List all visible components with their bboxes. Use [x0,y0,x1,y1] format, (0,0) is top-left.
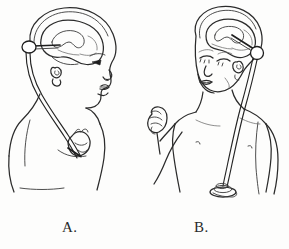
panel-a-heart-detail-3 [75,143,87,145]
panel-a-neck-back [9,94,40,156]
panel-a-drawing [9,8,116,192]
panel-a-distal-catheter-inner [30,53,81,157]
panel-b-cheek-line [225,78,229,88]
figure-container: A. B. [0,0,289,249]
panel-b-shunt-reservoir [251,47,264,60]
panel-b-caption: B. [194,219,209,236]
panel-a-torso-right-contour [97,124,105,190]
panel-b-neck-left [196,92,203,112]
panel-a-brain-outline [41,20,104,65]
panel-a-ear-lobe [52,79,61,86]
panel-b-eyelash-left [200,59,209,63]
panel-a-brain-sulcus-3 [58,50,79,55]
panel-a-arm-left-contour [9,156,14,192]
panel-b-shoulder-right [244,109,266,124]
panel-b-fist-knuckle-1 [151,111,161,114]
panel-b-nipple-left [196,142,200,144]
panel-b-fist-knuckle-3 [151,123,162,126]
panel-a-ventricular-catheter [33,45,60,46]
panel-a-cerebellum-line [52,57,78,65]
panel-b-nipple-right [248,146,252,148]
panel-b-fist-outline [148,107,167,133]
panel-b-eye-left [200,56,213,58]
panel-a-skull-outline [30,8,116,108]
panel-b-clavicle-left [196,120,220,126]
panel-a-ear [51,67,62,78]
panel-b-clavicle-right [240,118,260,124]
panel-b-inner-skull-line [199,10,256,38]
panel-a-caption: A. [62,219,78,236]
panel-a-inner-skull-line [34,12,108,44]
panel-a-chin-jaw [98,93,108,95]
panel-a-neck-front [86,108,100,124]
panel-a-brain-sulcus-1 [88,36,97,50]
panel-b-arm-right-inner [256,122,259,194]
panel-a-arm-inner-line [25,120,30,166]
panel-b-fist-knuckle-2 [150,117,162,120]
panel-b-shoulder-left [175,112,196,124]
panel-b-brow-left [199,50,213,52]
figure-illustration [0,0,289,249]
panel-a-shunt-reservoir [22,41,36,53]
panel-b-nostril [205,75,211,77]
panel-b-drawing [148,6,278,197]
panel-b-torso-left-contour [173,124,180,192]
panel-a-heart-detail-4 [78,150,87,152]
panel-a-ear-inner [55,71,59,75]
panel-b-mouth-line [200,82,212,83]
panel-b-ear [233,61,244,73]
panel-a-ventricular-catheter-edge [34,48,58,49]
panel-a-torso-bottom [20,188,64,190]
panel-b-eyelash-right [218,62,223,66]
panel-b-ear-inner [237,65,241,69]
panel-b-forearm [157,133,160,154]
panel-b-torso-right-contour [266,124,271,192]
panel-b-distal-catheter-inner [227,60,257,187]
panel-b-eye-right [217,59,230,61]
